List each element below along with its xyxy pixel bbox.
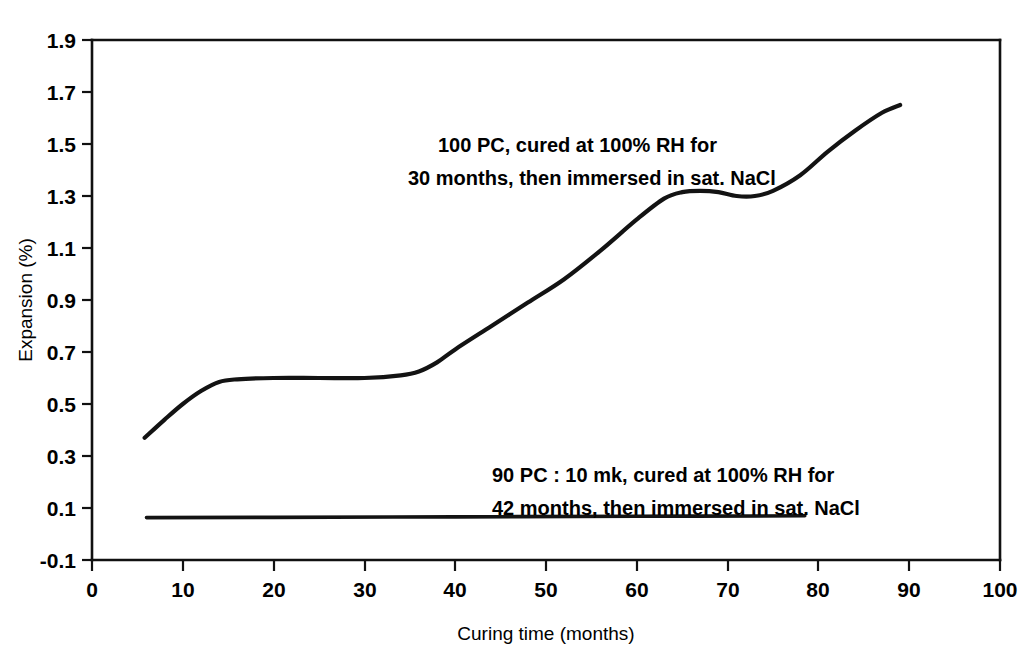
x-tick-label: 90 [897,578,920,601]
annotation-pc-100: 100 PC, cured at 100% RH for 30 months, … [408,134,776,189]
x-tick-label: 100 [982,578,1017,601]
y-tick-label: 1.7 [47,81,76,104]
x-axis-title: Curing time (months) [457,623,634,644]
chart-canvas: -0.1 0.1 0.3 0.5 0.7 0.9 1.1 1.3 1.5 1.7… [0,0,1036,662]
x-tick-label: 50 [534,578,557,601]
y-axis-ticks [82,40,92,560]
y-tick-label: 1.1 [47,237,77,260]
y-tick-label: 1.9 [47,29,76,52]
x-axis-ticks [92,560,1000,571]
y-tick-label: 0.7 [47,341,76,364]
x-tick-label: 10 [171,578,194,601]
annotation-line-1: 100 PC, cured at 100% RH for [438,134,717,156]
x-tick-label: 60 [625,578,648,601]
annotation-line-2: 42 months, then immersed in sat. NaCl [492,497,860,519]
y-tick-label: -0.1 [40,549,77,572]
y-tick-label: 1.3 [47,185,76,208]
x-tick-label: 30 [353,578,376,601]
y-axis-tick-labels: -0.1 0.1 0.3 0.5 0.7 0.9 1.1 1.3 1.5 1.7… [40,29,77,572]
annotation-line-1: 90 PC : 10 mk, cured at 100% RH for [492,464,835,486]
y-tick-label: 0.1 [47,497,77,520]
x-tick-label: 70 [716,578,739,601]
y-tick-label: 0.3 [47,445,76,468]
y-tick-label: 1.5 [47,133,77,156]
y-axis-title: Expansion (%) [15,238,36,362]
x-tick-label: 80 [806,578,829,601]
y-tick-label: 0.9 [47,289,76,312]
x-tick-label: 20 [262,578,285,601]
annotation-line-2: 30 months, then immersed in sat. NaCl [408,167,776,189]
y-tick-label: 0.5 [47,393,77,416]
chart-figure: -0.1 0.1 0.3 0.5 0.7 0.9 1.1 1.3 1.5 1.7… [0,0,1036,662]
x-tick-label: 40 [443,578,466,601]
x-axis-tick-labels: 0 10 20 30 40 50 60 70 80 90 100 [86,578,1017,601]
annotation-pc-90-mk-10: 90 PC : 10 mk, cured at 100% RH for 42 m… [492,464,860,519]
x-tick-label: 0 [86,578,98,601]
